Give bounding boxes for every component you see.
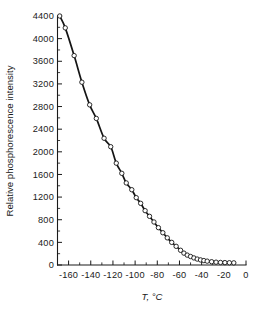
x-tick-label: 0 (243, 270, 248, 280)
y-tick-label: 400 (38, 238, 54, 248)
y-tick-label: 1200 (33, 192, 54, 202)
data-point-marker (205, 259, 209, 263)
data-point-marker (102, 136, 106, 140)
data-point-marker (130, 188, 134, 192)
phosphorescence-intensity-chart: 0400800120016002000240028003200360040004… (0, 0, 260, 309)
y-tick-label: 800 (38, 215, 54, 225)
y-axis-tick-labels: 0400800120016002000240028003200360040004… (33, 11, 54, 270)
data-point-marker (58, 14, 62, 18)
x-tick-label: -100 (126, 270, 145, 280)
y-tick-label: 4000 (33, 34, 54, 44)
data-point-marker (134, 195, 138, 199)
data-point-marker (94, 116, 98, 120)
chart-figure: 0400800120016002000240028003200360040004… (0, 0, 260, 309)
data-point-marker (218, 260, 222, 264)
data-point-marker (87, 103, 91, 107)
y-tick-label: 2000 (33, 147, 54, 157)
y-tick-label: 3200 (33, 79, 54, 89)
plot-axes (58, 16, 247, 265)
data-point-marker (223, 260, 227, 264)
y-tick-label: 2400 (33, 124, 54, 134)
data-point-marker (165, 236, 169, 240)
data-point-marker (152, 220, 156, 224)
data-series-markers (58, 14, 236, 265)
data-point-marker (170, 240, 174, 244)
data-point-marker (147, 214, 151, 218)
x-axis-tick-labels: -160-140-120-100-80-60-40-200 (59, 270, 249, 280)
data-point-marker (124, 181, 128, 185)
data-point-marker (232, 261, 236, 265)
data-point-marker (227, 261, 231, 265)
data-point-marker (214, 260, 218, 264)
x-axis-title: T, °C (141, 291, 162, 302)
x-tick-label: -80 (150, 270, 164, 280)
y-tick-label: 3600 (33, 56, 54, 66)
x-tick-label: -160 (59, 270, 78, 280)
x-tick-label: -20 (217, 270, 231, 280)
x-tick-label: -40 (195, 270, 209, 280)
y-tick-label: 4400 (33, 11, 54, 21)
data-point-marker (109, 145, 113, 149)
data-point-marker (143, 208, 147, 212)
y-axis-ticks (58, 16, 63, 265)
data-point-marker (114, 161, 118, 165)
data-point-marker (72, 53, 76, 57)
data-point-marker (63, 26, 67, 30)
data-point-marker (120, 171, 124, 175)
x-tick-label: -120 (103, 270, 122, 280)
x-tick-label: -140 (81, 270, 100, 280)
data-point-marker (138, 201, 142, 205)
data-point-marker (156, 225, 160, 229)
data-point-marker (174, 244, 178, 248)
y-tick-label: 1600 (33, 170, 54, 180)
data-point-marker (209, 260, 213, 264)
data-series-line (60, 16, 234, 263)
y-tick-label: 2800 (33, 102, 54, 112)
x-tick-label: -60 (173, 270, 187, 280)
y-tick-label: 0 (49, 260, 54, 270)
y-axis-title: Relative phosphorescence intensity (4, 65, 15, 216)
data-point-marker (161, 231, 165, 235)
data-point-marker (80, 80, 84, 84)
